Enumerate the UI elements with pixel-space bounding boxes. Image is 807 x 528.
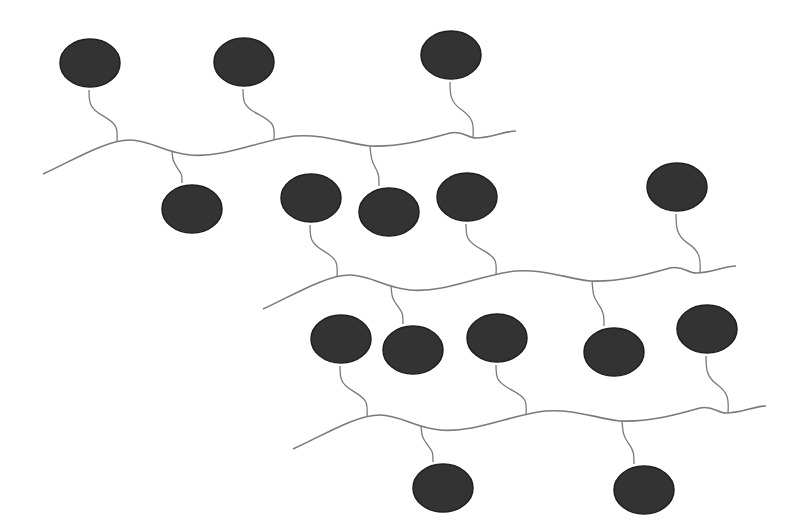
tether-line	[676, 214, 700, 273]
tether-line	[172, 152, 182, 183]
pendant-sphere	[281, 174, 341, 222]
pendant-sphere	[647, 163, 707, 211]
pendant-sphere	[421, 31, 481, 79]
tether-line	[706, 356, 728, 413]
tether-line	[450, 82, 473, 138]
tether-line	[391, 286, 403, 324]
tether-line	[592, 281, 604, 326]
tether-line	[243, 89, 274, 140]
tether-line	[622, 421, 634, 464]
pendant-sphere	[60, 39, 120, 87]
pendant-sphere	[311, 315, 371, 363]
pendant-sphere	[584, 328, 644, 376]
pendant-sphere	[413, 464, 473, 512]
pendant-sphere	[614, 466, 674, 514]
polymer-diagram	[0, 0, 807, 528]
pendant-sphere	[359, 188, 419, 236]
pendant-sphere	[677, 305, 737, 353]
tether-line	[310, 225, 337, 277]
tether-line	[89, 90, 117, 142]
tether-line	[466, 224, 496, 274]
pendant-sphere	[214, 38, 274, 86]
chain-backbone	[263, 266, 736, 309]
pendant-sphere	[467, 314, 527, 362]
tether-line	[340, 366, 367, 417]
tether-line	[496, 365, 526, 414]
chain-backbone	[43, 131, 516, 174]
pendant-sphere	[162, 185, 222, 233]
tether-line	[421, 426, 433, 462]
pendant-sphere	[383, 326, 443, 374]
pendant-sphere	[437, 173, 497, 221]
polymer-chain	[293, 305, 766, 514]
tether-line	[370, 146, 379, 186]
chain-backbone	[293, 406, 766, 449]
diagram-canvas	[0, 0, 807, 528]
